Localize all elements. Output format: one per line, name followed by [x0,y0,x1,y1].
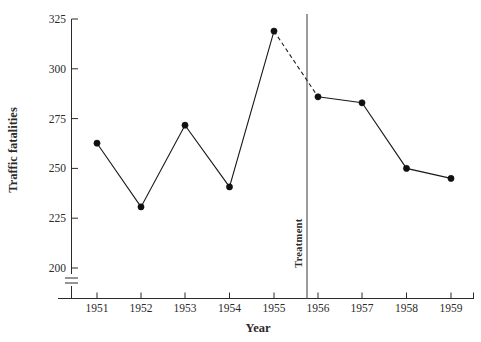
x-tick-label-1956: 1956 [307,302,330,314]
x-tick-label-1955: 1955 [263,302,286,314]
series-line-pre-treatment [97,31,274,207]
data-point-1958 [403,165,409,171]
data-point-1952 [138,204,144,210]
data-point-1953 [182,122,188,128]
data-point-1955 [271,28,277,34]
x-tick-label-1952: 1952 [130,302,153,314]
x-tick-label-1953: 1953 [174,302,197,314]
data-point-1954 [226,184,232,190]
x-tick-label-1957: 1957 [351,302,374,314]
series-line-dashed-transition [274,31,318,97]
x-axis-title: Year [246,321,271,335]
y-tick-label-275: 275 [49,113,67,125]
series-line-post-treatment [318,97,451,179]
chart-figure: 325 300 275 250 225 200 1951 1952 1953 1… [0,0,481,342]
x-tick-label-1958: 1958 [395,302,418,314]
x-axis-ticks [97,293,451,299]
data-point-1956 [315,94,321,100]
x-tick-label-1951: 1951 [86,302,109,314]
data-point-1959 [448,175,454,181]
x-tick-label-1959: 1959 [440,302,463,314]
y-tick-label-300: 300 [49,63,67,75]
y-tick-label-325: 325 [49,13,67,25]
data-point-1951 [94,140,100,146]
y-axis-ticks [72,19,79,268]
y-tick-label-200: 200 [49,262,67,274]
y-tick-label-225: 225 [49,212,67,224]
y-axis-title: Traffic fatalities [6,107,20,193]
series-markers [94,28,454,210]
data-point-1957 [359,100,365,106]
x-axis-tick-labels: 1951 1952 1953 1954 1955 1956 1957 1958 … [86,302,463,314]
y-tick-label-250: 250 [49,162,67,174]
chart-canvas: 325 300 275 250 225 200 1951 1952 1953 1… [0,0,481,342]
y-axis-tick-labels: 325 300 275 250 225 200 [49,13,67,274]
x-tick-label-1954: 1954 [218,302,241,314]
treatment-line-label: Treatment [293,218,304,268]
